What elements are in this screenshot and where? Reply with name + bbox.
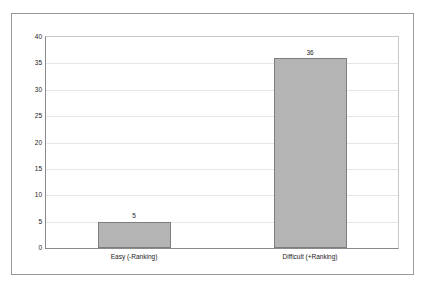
x-axis-category-label: Easy (-Ranking) xyxy=(111,254,158,261)
chart-figure: 0510152025303540 5Easy (-Ranking)36Diffi… xyxy=(0,0,428,291)
bar-2[interactable]: 36Difficult (+Ranking) xyxy=(274,58,347,248)
bar-1[interactable]: 5Easy (-Ranking) xyxy=(98,222,171,248)
y-axis-tick-label: 5 xyxy=(38,218,42,225)
y-axis-tick-label: 10 xyxy=(35,192,42,199)
y-axis-tick-label: 35 xyxy=(35,60,42,67)
y-axis-tick-label: 40 xyxy=(35,34,42,41)
bar-value-label: 5 xyxy=(132,213,136,220)
y-axis-tick-label: 25 xyxy=(35,113,42,120)
chart-outer-frame: 0510152025303540 5Easy (-Ranking)36Diffi… xyxy=(11,13,414,275)
x-axis-category-label: Difficult (+Ranking) xyxy=(283,254,338,261)
y-axis-tick-label: 30 xyxy=(35,87,42,94)
y-axis-tick-label: 20 xyxy=(35,139,42,146)
plot-area: 0510152025303540 5Easy (-Ranking)36Diffi… xyxy=(45,36,399,249)
y-axis-tick-label: 15 xyxy=(35,166,42,173)
y-axis-tick-label: 0 xyxy=(38,245,42,252)
bar-value-label: 36 xyxy=(306,50,313,57)
